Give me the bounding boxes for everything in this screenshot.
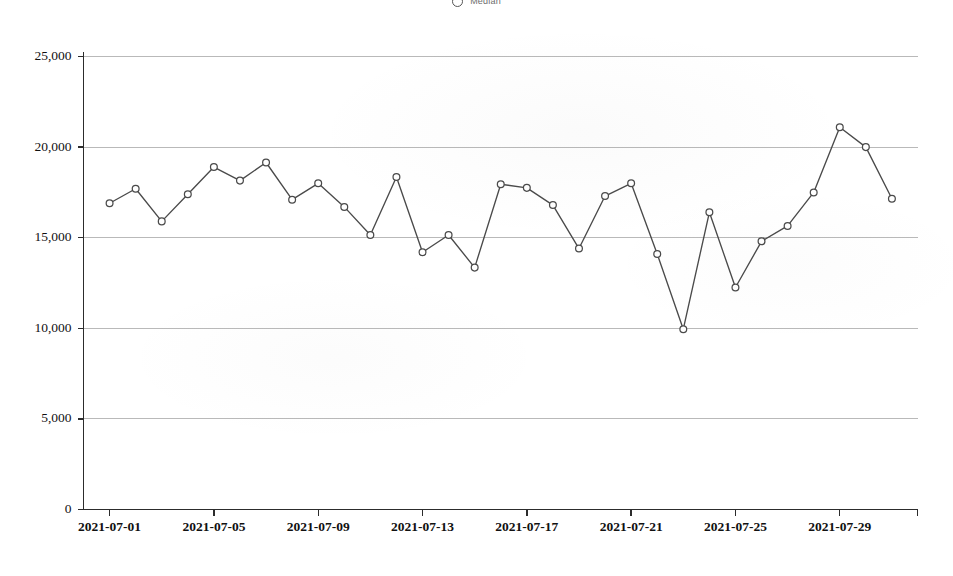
- y-tick-label: 5,000: [41, 410, 72, 425]
- data-point-marker: 2021-07-19: 14400: [576, 245, 583, 252]
- y-tick-label: 15,000: [34, 229, 71, 244]
- y-axis-ticks-group: 05,00010,00015,00020,00025,000: [34, 48, 83, 516]
- data-point-marker: 2021-07-08: 17100: [289, 196, 296, 203]
- data-point-marker: 2021-07-26: 14800: [758, 238, 765, 245]
- data-point-marker: 2021-07-01: 16900: [106, 200, 113, 207]
- x-tick-label: 2021-07-17: [495, 519, 558, 534]
- data-point-marker: 2021-07-10: 16700: [341, 204, 348, 211]
- data-point-marker: 2021-07-23: 9950: [680, 326, 687, 333]
- data-point-marker: 2021-07-25: 12250: [732, 284, 739, 291]
- data-point-marker: 2021-07-16: 17950: [497, 181, 504, 188]
- x-tick-label: 2021-07-29: [808, 519, 871, 534]
- data-point-marker: 2021-07-06: 18150: [237, 177, 244, 184]
- gridlines-group: [84, 57, 919, 510]
- x-tick-label: 2021-07-05: [182, 519, 245, 534]
- y-tick-label: 20,000: [34, 139, 71, 154]
- data-point-marker: 2021-07-05: 18900: [210, 164, 217, 171]
- data-point-marker: 2021-07-02: 17700: [132, 185, 139, 192]
- series-markers-group: 2021-07-01: 169002021-07-02: 177002021-0…: [106, 124, 895, 333]
- data-point-marker: 2021-07-31: 17150: [889, 195, 896, 202]
- data-point-marker: 2021-07-21: 18000: [628, 180, 635, 187]
- y-tick-label: 0: [65, 501, 72, 516]
- x-tick-label: 2021-07-25: [704, 519, 767, 534]
- data-point-marker: 2021-07-11: 15150: [367, 232, 374, 239]
- data-point-marker: 2021-07-13: 14200: [419, 249, 426, 256]
- plot-area: 05,00010,00015,00020,00025,000 2021-07-0…: [0, 0, 953, 576]
- data-point-marker: 2021-07-28: 17500: [810, 189, 817, 196]
- data-point-marker: 2021-07-17: 17750: [523, 184, 530, 191]
- data-point-marker: 2021-07-18: 16800: [550, 202, 557, 209]
- data-point-marker: 2021-07-20: 17300: [602, 193, 609, 200]
- data-point-marker: 2021-07-09: 18000: [315, 180, 322, 187]
- data-point-marker: 2021-07-12: 18350: [393, 174, 400, 181]
- data-point-marker: 2021-07-30: 20000: [862, 144, 869, 151]
- line-chart: Median 05,00010,00015,00020,00025,000 20…: [0, 0, 953, 576]
- data-point-marker: 2021-07-15: 13350: [471, 264, 478, 271]
- data-point-marker: 2021-07-29: 21100: [836, 124, 843, 131]
- x-tick-label: 2021-07-21: [600, 519, 663, 534]
- x-axis-ticks-group: 2021-07-012021-07-052021-07-092021-07-13…: [78, 510, 917, 534]
- x-tick-label: 2021-07-13: [391, 519, 454, 534]
- data-point-marker: 2021-07-27: 15650: [784, 223, 791, 230]
- series-line-median: [110, 127, 892, 329]
- data-point-marker: 2021-07-04: 17400: [184, 191, 191, 198]
- data-point-marker: 2021-07-14: 15150: [445, 232, 452, 239]
- y-tick-label: 10,000: [34, 320, 71, 335]
- x-tick-label: 2021-07-09: [287, 519, 350, 534]
- x-tick-label: 2021-07-01: [78, 519, 141, 534]
- data-point-marker: 2021-07-07: 19150: [263, 159, 270, 166]
- data-point-marker: 2021-07-24: 16400: [706, 209, 713, 216]
- data-point-marker: 2021-07-03: 15900: [158, 218, 165, 225]
- data-point-marker: 2021-07-22: 14100: [654, 251, 661, 258]
- y-tick-label: 25,000: [34, 48, 71, 63]
